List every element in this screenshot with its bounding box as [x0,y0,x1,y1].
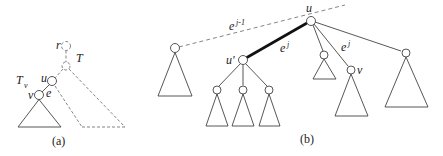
edge-e-j-thick [246,23,307,58]
label-u: u [306,1,312,15]
subtree-right [385,57,428,107]
panel-a: r T u v e T v (a) [16,38,125,148]
label-r: r [56,38,61,52]
label-e-j-minus-1: e [229,19,235,33]
label-e-j-minus-1-sup: j-1 [235,18,245,27]
tree-T-dashed [55,42,125,128]
label-Tv-sub: v [24,81,28,90]
node-u [48,77,57,86]
label-e-j-v-sup: j [347,39,351,48]
node-u-child-right [402,49,410,57]
node-uprime-child-2 [239,86,247,94]
node-v [35,91,44,100]
node-u [307,17,316,26]
label-u-prime: u' [226,53,235,67]
caption-a: (a) [52,134,65,148]
label-v: v [28,88,34,102]
label-v: v [357,63,363,77]
node-uprime-child-1 [213,86,221,94]
subtree-v [335,74,368,116]
subtree-u-small [313,59,336,79]
subtree-Tv [18,100,61,128]
label-e-j-sup: j [286,40,290,49]
subtree-uprime-3 [259,94,280,126]
subtree-left [158,53,192,97]
node-uprime-child-3 [265,86,273,94]
label-e-j-v: e [341,40,347,54]
subtree-uprime-1 [206,94,228,126]
node-u-child-small [320,51,328,59]
node-left [171,44,180,53]
caption-b: (b) [300,132,314,146]
subtree-uprime-2 [232,94,254,126]
node-u-prime [239,56,248,65]
label-e-j: e [280,41,286,55]
panel-b: u u' v e j-1 e j e j (b) [158,1,428,146]
edge-e-j-minus-1 [179,5,345,47]
label-e: e [46,86,52,100]
label-u: u [41,71,47,85]
label-Tv: T [16,73,24,87]
node-v [347,66,355,74]
root-node-r [62,42,71,51]
dashed-node [62,62,70,70]
label-T: T [76,51,84,65]
diagram-canvas: r T u v e T v (a) [0,0,443,156]
